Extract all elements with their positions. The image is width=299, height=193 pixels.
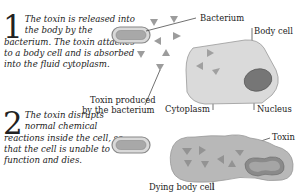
toxin-produced-label-line2: by the bacterium [82, 105, 155, 115]
toxin-label: Toxin [272, 132, 295, 142]
body-cell-label: Body cell [254, 26, 293, 36]
bacterium-label: Bacterium [200, 13, 244, 23]
cytoplasm-label: Cytoplasm [165, 104, 210, 114]
dying-body-cell-label: Dying body cell [149, 182, 215, 192]
toxin-icon [137, 16, 181, 71]
nucleus-label: Nucleus [257, 104, 292, 114]
bacterium-icon [112, 137, 150, 153]
body-cell-icon [186, 40, 278, 104]
toxin-produced-label-line1: Toxin produced [90, 95, 156, 105]
bacterium-icon [112, 27, 150, 43]
